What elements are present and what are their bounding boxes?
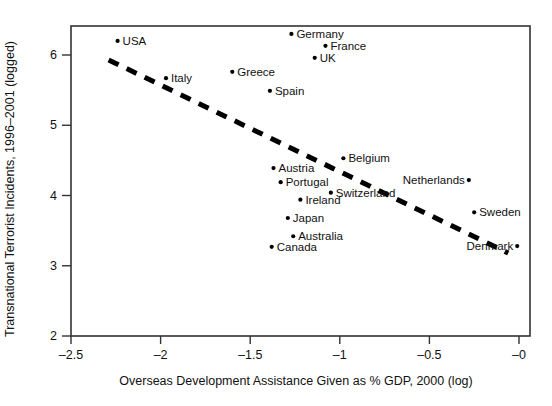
data-point-marker xyxy=(289,32,293,36)
data-point-label: Ireland xyxy=(305,194,340,206)
x-tick-label: –0.5 xyxy=(417,348,441,362)
axis-ticks xyxy=(62,55,519,344)
y-tick-label: 5 xyxy=(43,118,57,132)
data-point-label: Netherlands xyxy=(403,174,465,186)
x-tick-label: –2 xyxy=(154,348,168,362)
data-point-label: Switzerland xyxy=(336,187,395,199)
y-tick-label: 4 xyxy=(43,189,57,203)
y-tick-label: 2 xyxy=(43,329,57,343)
data-point-marker xyxy=(341,156,345,160)
data-point-label: Austria xyxy=(278,162,314,174)
data-point-marker xyxy=(472,210,476,214)
data-point-marker xyxy=(515,244,519,248)
data-point-marker xyxy=(298,198,302,202)
data-point-label: Germany xyxy=(296,28,343,40)
data-point-marker xyxy=(313,56,317,60)
x-tick-label: –1.5 xyxy=(238,348,262,362)
data-point-label: Italy xyxy=(171,72,192,84)
data-point-label: France xyxy=(330,40,366,52)
data-point-marker xyxy=(467,178,471,182)
plot-canvas xyxy=(0,0,552,406)
data-point-marker xyxy=(230,70,234,74)
data-point-marker xyxy=(268,89,272,93)
data-point-marker xyxy=(291,234,295,238)
x-axis-title: Overseas Development Assistance Given as… xyxy=(119,374,472,388)
data-point-marker xyxy=(286,216,290,220)
data-point-marker xyxy=(115,39,119,43)
x-tick-label: –0 xyxy=(512,348,526,362)
data-point-label: UK xyxy=(320,52,336,64)
x-tick-label: –1 xyxy=(333,348,347,362)
y-tick-label: 6 xyxy=(43,48,57,62)
trend-line xyxy=(109,60,509,253)
data-point-marker xyxy=(164,76,168,80)
y-axis-title: Transnational Terrorist Incidents, 1996–… xyxy=(3,41,17,337)
scatter-plot-figure: USAGermanyFranceUKItalyGreeceSpainBelgiu… xyxy=(0,0,552,406)
data-point-label: Japan xyxy=(293,212,324,224)
data-point-label: Greece xyxy=(237,66,275,78)
data-point-marker xyxy=(270,245,274,249)
data-point-label: Spain xyxy=(275,85,304,97)
data-point-label: Portugal xyxy=(286,176,329,188)
x-tick-label: –2.5 xyxy=(59,348,83,362)
data-point-marker xyxy=(323,44,327,48)
data-point-label: Canada xyxy=(277,241,317,253)
data-point-marker xyxy=(271,166,275,170)
data-point-label: Denmark xyxy=(467,240,514,252)
data-point-label: Sweden xyxy=(479,206,521,218)
data-point-marker xyxy=(279,180,283,184)
data-point-label: USA xyxy=(123,35,147,47)
data-point-label: Belgium xyxy=(348,152,390,164)
y-tick-label: 3 xyxy=(43,259,57,273)
